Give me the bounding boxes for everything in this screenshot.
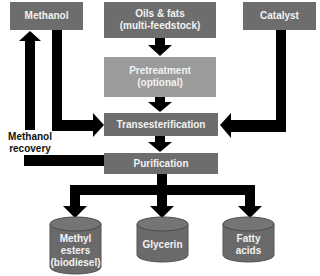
output-methyl-esters: Methyl esters (biodiesel) [49, 216, 102, 275]
catalyst-label: Catalyst [260, 10, 299, 22]
output-label-3: (biodiesel) [50, 257, 100, 269]
arrow-transesterification-to-purification [148, 136, 172, 152]
transesterification-label: Transesterification [117, 119, 206, 131]
recovery-line2: recovery [4, 143, 56, 155]
output-glycerin: Glycerin [136, 216, 189, 263]
arrow-pretreatment-to-transesterification [148, 97, 172, 112]
output-label-1: Methyl [60, 233, 92, 245]
catalyst-box: Catalyst [243, 2, 316, 30]
output-label-2: esters [61, 245, 90, 257]
transesterification-box: Transesterification [104, 113, 218, 136]
oils-fats-label: Oils & fats [135, 8, 184, 20]
arrow-purification-to-outputs [63, 174, 262, 218]
pretreatment-label: Pretreatment [129, 65, 191, 77]
oils-fats-box: Oils & fats (multi-feedstock) [104, 2, 216, 38]
oils-fats-sublabel: (multi-feedstock) [120, 20, 201, 32]
pretreatment-sublabel: (optional) [137, 77, 183, 89]
output-label-2: acids [236, 245, 262, 257]
purification-label: Purification [133, 158, 188, 170]
recovery-line1: Methanol [4, 131, 56, 143]
arrow-oils-to-pretreatment [148, 38, 172, 56]
purification-box: Purification [104, 153, 218, 174]
arrow-methanol-to-transesterification [52, 30, 104, 137]
output-fatty-acids: Fatty acids [222, 216, 275, 263]
output-label-1: Glycerin [142, 239, 182, 251]
methanol-box: Methanol [10, 2, 83, 30]
methanol-label: Methanol [25, 10, 69, 22]
pretreatment-box: Pretreatment (optional) [104, 57, 216, 97]
output-label-1: Fatty [237, 233, 261, 245]
arrow-catalyst-to-transesterification [220, 30, 286, 138]
methanol-recovery-label: Methanol recovery [4, 131, 56, 155]
